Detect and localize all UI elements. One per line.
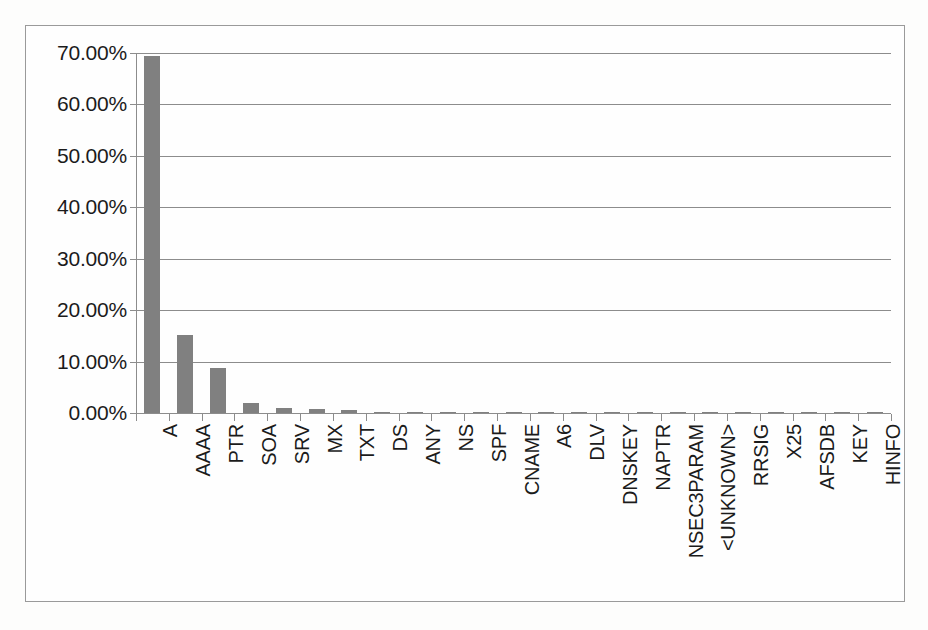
- x-axis-category-label: DNSKEY: [619, 424, 642, 505]
- x-axis-category-label: SOA: [258, 424, 281, 466]
- bar: [834, 412, 850, 413]
- x-axis-category-label-text: TXT: [356, 424, 379, 461]
- x-axis-category-label-text: SPF: [488, 424, 511, 462]
- bar: [571, 412, 587, 413]
- x-axis-category-label: HINFO: [882, 424, 905, 485]
- x-tick-mark: [891, 414, 892, 421]
- x-axis-category-label-text: ANY: [422, 424, 445, 465]
- y-axis-tick-label: 50.00%: [57, 144, 127, 168]
- x-axis-category-label-text: DNSKEY: [619, 424, 642, 505]
- x-axis-category-label: A: [159, 424, 182, 437]
- x-tick-mark: [366, 414, 367, 421]
- x-axis-category-label-text: RRSIG: [750, 424, 773, 486]
- bar: [637, 412, 653, 413]
- x-axis-category-label: NAPTR: [652, 424, 675, 491]
- x-axis-category-label-text: AFSDB: [816, 424, 839, 490]
- x-tick-mark: [760, 414, 761, 421]
- x-tick-mark: [267, 414, 268, 421]
- bar: [309, 409, 325, 413]
- y-axis-tick-label: 40.00%: [57, 195, 127, 219]
- bar: [210, 368, 226, 413]
- x-axis-category-label-text: KEY: [849, 424, 872, 463]
- x-tick-mark: [300, 414, 301, 421]
- x-tick-mark: [694, 414, 695, 421]
- bar: [538, 412, 554, 413]
- x-axis-category-label: NS: [455, 424, 478, 451]
- x-axis-category-label-text: A: [159, 424, 182, 437]
- x-axis-category-label-text: CNAME: [521, 424, 544, 495]
- x-axis-category-label-text: SOA: [258, 424, 281, 466]
- bar: [177, 335, 193, 413]
- x-tick-mark: [793, 414, 794, 421]
- x-axis-category-label: AAAA: [192, 424, 215, 477]
- x-tick-mark: [431, 414, 432, 421]
- bar: [702, 412, 718, 413]
- x-tick-mark: [136, 414, 137, 421]
- x-tick-mark: [858, 414, 859, 421]
- x-axis-category-label-text: X25: [783, 424, 806, 459]
- x-axis-category-label-text: DS: [389, 424, 412, 451]
- bar: [144, 56, 160, 413]
- plot-area: 70.00%60.00%50.00%40.00%30.00%20.00%10.0…: [136, 53, 891, 413]
- x-tick-mark: [825, 414, 826, 421]
- x-axis-category-label-text: MX: [324, 424, 347, 454]
- bar: [506, 412, 522, 413]
- x-axis-category-label-text: <UNKNOWN>: [717, 424, 740, 551]
- x-axis-category-label-text: AAAA: [192, 424, 215, 477]
- bar: [276, 408, 292, 413]
- x-axis-category-label-text: NSEC3PARAM: [685, 424, 708, 558]
- x-axis-labels: AAAAAPTRSOASRVMXTXTDSANYNSSPFCNAMEA6DLVD…: [136, 424, 891, 594]
- x-axis-category-label: TXT: [356, 424, 379, 461]
- bar: [768, 412, 784, 413]
- x-axis-category-label: ANY: [422, 424, 445, 465]
- x-axis-category-label: KEY: [849, 424, 872, 463]
- x-axis-category-label: DS: [389, 424, 412, 451]
- x-tick-mark: [596, 414, 597, 421]
- x-axis-category-label-text: A6: [553, 424, 576, 448]
- x-axis-category-label-text: NAPTR: [652, 424, 675, 491]
- x-tick-mark: [727, 414, 728, 421]
- x-axis-category-label: PTR: [225, 424, 248, 463]
- x-tick-mark: [234, 414, 235, 421]
- x-axis-category-label: X25: [783, 424, 806, 459]
- bar: [801, 412, 817, 413]
- y-axis-tick-label: 0.00%: [68, 401, 127, 425]
- x-axis-category-label: A6: [553, 424, 576, 448]
- y-axis-tick-label: 20.00%: [57, 298, 127, 322]
- x-axis-category-label: DLV: [586, 424, 609, 461]
- x-axis-category-label-text: DLV: [586, 424, 609, 461]
- x-tick-mark: [628, 414, 629, 421]
- x-axis-category-label: CNAME: [521, 424, 544, 495]
- bar: [374, 412, 390, 413]
- x-axis-category-label: AFSDB: [816, 424, 839, 490]
- y-axis-tick-label: 30.00%: [57, 247, 127, 271]
- y-axis-tick-label: 60.00%: [57, 92, 127, 116]
- x-axis-category-label: SRV: [291, 424, 314, 464]
- x-axis-category-label-text: SRV: [291, 424, 314, 464]
- x-tick-mark: [464, 414, 465, 421]
- bar: [735, 412, 751, 413]
- x-tick-mark: [202, 414, 203, 421]
- bar: [341, 410, 357, 413]
- bar: [604, 412, 620, 413]
- x-axis-category-label-text: PTR: [225, 424, 248, 463]
- bar: [440, 412, 456, 413]
- x-axis-category-label: RRSIG: [750, 424, 773, 486]
- y-axis-tick-label: 70.00%: [57, 41, 127, 65]
- bar: [473, 412, 489, 413]
- bar: [407, 412, 423, 413]
- x-axis-category-label: <UNKNOWN>: [717, 424, 740, 551]
- x-axis-category-label-text: HINFO: [882, 424, 905, 485]
- x-axis-ticks: [136, 414, 891, 421]
- x-tick-mark: [530, 414, 531, 421]
- y-axis-tick-label: 10.00%: [57, 350, 127, 374]
- bar: [867, 412, 883, 413]
- chart-frame: 70.00%60.00%50.00%40.00%30.00%20.00%10.0…: [25, 25, 905, 602]
- x-tick-mark: [563, 414, 564, 421]
- x-tick-mark: [399, 414, 400, 421]
- x-tick-mark: [333, 414, 334, 421]
- x-tick-mark: [169, 414, 170, 421]
- x-tick-mark: [661, 414, 662, 421]
- x-tick-mark: [497, 414, 498, 421]
- x-axis-category-label: MX: [324, 424, 347, 454]
